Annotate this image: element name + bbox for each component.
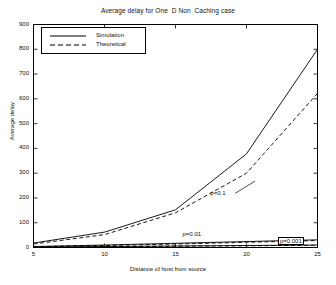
data-curves (34, 49, 318, 247)
legend: Simulation Theoretical (41, 27, 146, 54)
chart-figure: Average delay for One D Non Caching case… (0, 0, 336, 285)
y-tick-label-200: 200 (5, 194, 29, 200)
legend-label-theoretical: Theoretical (96, 41, 126, 47)
x-tick-label-5: 5 (23, 251, 45, 257)
y-tick-label-900: 900 (5, 21, 29, 27)
y-tick-label-0: 0 (5, 244, 29, 250)
y-tick-label-800: 800 (5, 45, 29, 51)
x-axis-title: Distance of host from source (0, 266, 336, 272)
x-tick-label-20: 20 (236, 251, 258, 257)
axes-frame (34, 25, 318, 248)
y-tick-label-700: 700 (5, 70, 29, 76)
legend-sample-lines (42, 28, 143, 51)
curve-theoretical-p-0-1 (34, 93, 318, 244)
legend-label-simulation: Simulation (96, 32, 124, 38)
y-tick-label-100: 100 (5, 219, 29, 225)
tick-marks (34, 25, 318, 248)
annotation-p-0-1: p=0.1 (210, 190, 225, 196)
annotation-p-0-01: p=0.01 (183, 231, 202, 237)
annotation-p-0-001: p=0.001 (278, 237, 304, 245)
y-tick-label-300: 300 (5, 169, 29, 175)
x-tick-label-10: 10 (94, 251, 116, 257)
x-tick-label-25: 25 (307, 251, 329, 257)
x-tick-label-15: 15 (165, 251, 187, 257)
annotation-leaders (235, 181, 255, 193)
curve-simulation-p-0-1 (34, 49, 318, 243)
y-axis-title: Average delay (9, 91, 15, 151)
